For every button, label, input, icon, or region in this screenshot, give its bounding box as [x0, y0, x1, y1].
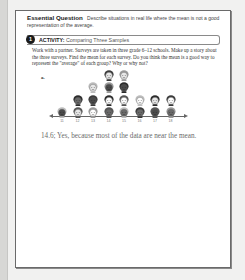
person-face-icon — [119, 67, 129, 78]
person-face-icon — [150, 104, 160, 115]
person-face-icon — [166, 92, 176, 103]
worksheet-page: Essential Question Describe situations i… — [15, 10, 231, 268]
left-margin-strip — [0, 0, 8, 280]
person-face-icon — [166, 104, 176, 115]
activity-number-badge: 1 — [26, 35, 35, 44]
activity-label-bold: ACTIVITY: — [39, 37, 65, 43]
axis-tick-label: 14 — [102, 119, 116, 123]
activity-prompt: Work with a partner. Surveys are taken i… — [32, 47, 222, 67]
person-face-icon — [73, 92, 83, 103]
arrow-right-icon — [184, 114, 188, 118]
person-face-icon — [119, 92, 129, 103]
axis-tick-label: 12 — [71, 119, 85, 123]
essential-question-title: Essential Question — [27, 14, 83, 21]
person-face-icon — [104, 104, 114, 115]
activity-banner: 1 ACTIVITY: Comparing Three Samples — [27, 35, 220, 45]
person-face-icon — [119, 104, 129, 115]
person-face-icon — [57, 104, 67, 115]
axis-tick-label: 17 — [148, 119, 162, 123]
axis-tick-label: 13 — [86, 119, 100, 123]
person-face-icon — [104, 79, 114, 90]
essential-question: Essential Question Describe situations i… — [27, 15, 223, 28]
answer-text: 14.6; Yes, because most of the data are … — [41, 132, 201, 141]
person-face-icon — [150, 92, 160, 103]
person-face-icon — [104, 67, 114, 78]
activity-label-text: Comparing Three Samples — [66, 37, 129, 43]
axis-tick-label: 15 — [117, 119, 131, 123]
person-face-icon — [73, 104, 83, 115]
activity-label: ACTIVITY: Comparing Three Samples — [39, 36, 129, 44]
part-label: a. — [41, 75, 45, 80]
person-face-icon — [119, 79, 129, 90]
person-face-icon — [104, 92, 114, 103]
person-face-icon — [88, 104, 98, 115]
person-face-icon — [135, 104, 145, 115]
axis-tick-label: 11 — [55, 119, 69, 123]
axis-tick-label: 18 — [164, 119, 178, 123]
person-face-icon — [135, 92, 145, 103]
person-face-icon — [88, 79, 98, 90]
axis-tick-label: 16 — [133, 119, 147, 123]
dot-plot: 1112131415161718 — [51, 66, 186, 126]
person-face-icon — [88, 92, 98, 103]
arrow-left-icon — [49, 114, 53, 118]
